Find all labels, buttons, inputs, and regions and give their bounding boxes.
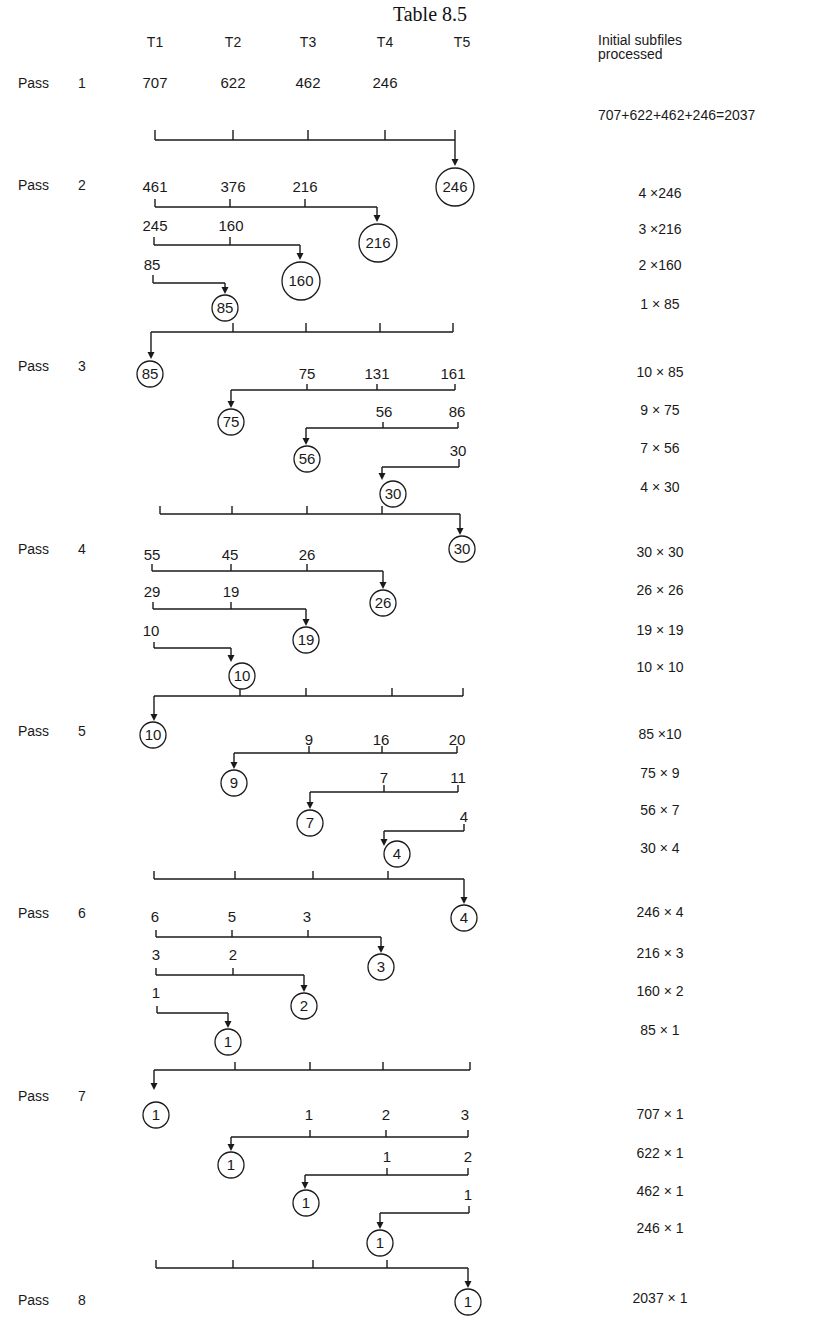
pass-word: Pass [18, 905, 49, 921]
arrow-down-icon [151, 1083, 158, 1090]
merge-connector [302, 1168, 469, 1189]
subfile-count: 20 [449, 731, 466, 748]
merged-subfile-circle: 85 [212, 295, 238, 321]
subfile-count: 245 [142, 217, 167, 234]
processed-entry: 3 ×216 [638, 221, 681, 237]
processed-entry: 30 × 4 [640, 840, 680, 856]
processed-entry: 10 × 10 [636, 659, 683, 675]
arrow-down-icon [307, 802, 314, 809]
arrow-down-icon [231, 762, 238, 769]
arrow-down-icon [228, 1144, 235, 1151]
processed-entry: 75 × 9 [640, 765, 680, 781]
subfile-count: 216 [292, 178, 317, 195]
subfile-count: 1 [383, 1148, 391, 1165]
processed-entry: 2 ×160 [638, 257, 681, 273]
processed-entry: 85 ×10 [638, 726, 681, 742]
subfile-count: 160 [218, 217, 243, 234]
subfile-count: 55 [144, 546, 161, 563]
pass-number: 7 [78, 1088, 86, 1104]
circle-value: 1 [302, 1194, 310, 1211]
merged-subfile-circle: 160 [282, 262, 320, 300]
arrow-down-icon [452, 159, 459, 166]
processed-entry: 246 × 1 [636, 1220, 683, 1236]
pass-label-2: Pass2 [18, 177, 86, 193]
subfile-count: 1 [464, 1186, 472, 1203]
subfile-count: 75 [299, 365, 316, 382]
pass-label-4: Pass4 [18, 541, 86, 557]
merged-subfile-circle: 216 [359, 224, 397, 262]
merged-subfile-circle: 2 [291, 993, 317, 1019]
subfile-count: 1 [152, 984, 160, 1001]
circle-value: 2 [300, 997, 308, 1014]
pass-label-3: Pass3 [18, 358, 86, 374]
subfile-count: 707 [142, 74, 167, 91]
pass-word: Pass [18, 1292, 49, 1308]
merged-subfile-circle: 1 [455, 1289, 481, 1315]
merge-connector [307, 785, 459, 809]
merged-subfile-circle: 26 [370, 590, 396, 616]
circle-value: 160 [288, 272, 313, 289]
merged-subfile-circle: 56 [294, 446, 320, 472]
pass-label-6: Pass6 [18, 905, 86, 921]
merge-connector [153, 275, 229, 294]
merge-connector [152, 564, 387, 589]
merged-subfile-circle: 10 [229, 663, 255, 689]
merge-connector [231, 746, 458, 769]
circle-value: 1 [464, 1293, 472, 1310]
arrow-down-icon [303, 438, 310, 445]
column-header-t1: T1 [147, 34, 164, 50]
processed-entry: 2037 × 1 [633, 1290, 688, 1306]
processed-entry: 462 × 1 [636, 1183, 683, 1199]
pass-number: 1 [78, 75, 86, 91]
merge-connector [228, 1130, 469, 1151]
arrow-down-icon [228, 655, 235, 662]
merged-subfile-circle: 9 [221, 770, 247, 796]
subfile-count: 45 [222, 546, 239, 563]
merged-subfile-circle: 1 [367, 1230, 393, 1256]
initial-subfiles-header: Initial subfilesprocessed [598, 32, 682, 62]
circle-value: 216 [365, 234, 390, 251]
circle-value: 1 [152, 1106, 160, 1123]
circle-value: 30 [385, 485, 402, 502]
right-header-line: processed [598, 46, 663, 62]
processed-column: 707+622+462+246=20374 ×2463 ×2162 ×1601 … [598, 107, 755, 1306]
circle-value: 246 [442, 178, 467, 195]
merge-connector [156, 1260, 472, 1288]
merged-subfile-circle: 85 [137, 361, 163, 387]
column-header-t5: T5 [454, 34, 471, 50]
subfile-count: 56 [376, 403, 393, 420]
subfile-count: 26 [299, 546, 316, 563]
circle-value: 1 [224, 1033, 232, 1050]
circle-value: 9 [230, 774, 238, 791]
subfile-count: 29 [144, 583, 161, 600]
merged-subfile-circle: 19 [293, 627, 319, 653]
subfile-count: 161 [440, 365, 465, 382]
processed-entry: 160 × 2 [636, 983, 683, 999]
subfile-count: 376 [220, 178, 245, 195]
pass-number: 2 [78, 177, 86, 193]
merge-flow-graphic: T1T2T3T4T5 Initial subfilesprocessed Pas… [0, 0, 815, 1327]
pass-word: Pass [18, 75, 49, 91]
subfile-count: 2 [382, 1106, 390, 1123]
subfile-count: 19 [223, 583, 240, 600]
merge-connector [155, 199, 381, 222]
subfile-count: 2 [229, 946, 237, 963]
subfile-count: 10 [143, 622, 160, 639]
arrow-down-icon [225, 1021, 232, 1028]
circle-value: 75 [223, 413, 240, 430]
merged-subfile-circle: 1 [293, 1190, 319, 1216]
subfile-count: 9 [305, 731, 313, 748]
circle-value: 1 [227, 1156, 235, 1173]
merged-subfile-circle: 1 [218, 1152, 244, 1178]
pass-number: 6 [78, 905, 86, 921]
arrow-down-icon [151, 714, 158, 721]
merge-connector [377, 1206, 470, 1229]
arrow-down-icon [374, 215, 381, 222]
merge-connector [155, 130, 459, 166]
merged-subfile-circle: 1 [215, 1029, 241, 1055]
pass-number: 4 [78, 541, 86, 557]
pass-label-8: Pass8 [18, 1292, 86, 1308]
subfile-count: 462 [295, 74, 320, 91]
processed-entry: 9 × 75 [640, 402, 680, 418]
processed-entry: 1 × 85 [640, 296, 680, 312]
